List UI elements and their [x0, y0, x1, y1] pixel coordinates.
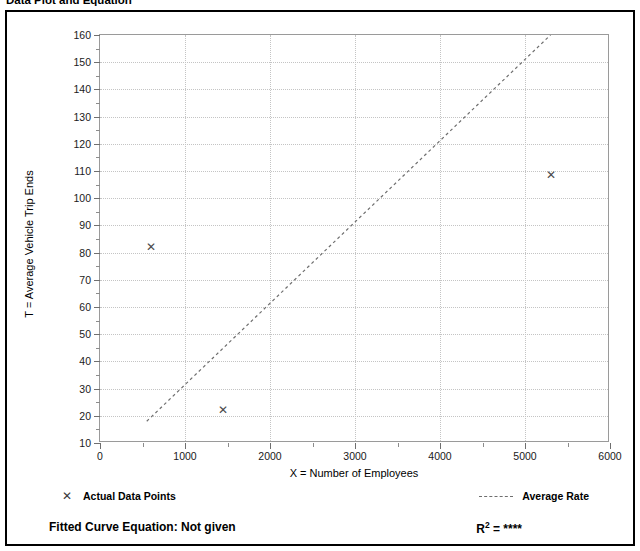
x-axis-minor-tick — [568, 443, 569, 447]
gridline-vertical — [525, 35, 526, 441]
y-axis-tick — [94, 389, 100, 390]
y-axis-minor-tick — [96, 76, 100, 77]
y-axis-tick-label: 110 — [74, 165, 91, 177]
y-axis-tick — [94, 62, 100, 63]
gridline-vertical — [355, 35, 356, 441]
y-axis-tick — [94, 416, 100, 417]
legend-label-data-points: Actual Data Points — [83, 490, 176, 502]
x-axis-minor-tick — [483, 443, 484, 447]
y-axis-minor-tick — [96, 212, 100, 213]
y-axis-title: T = Average Vehicle Trip Ends — [23, 144, 35, 344]
x-axis-tick-label: 6000 — [598, 450, 621, 462]
y-axis-tick-label: 30 — [79, 383, 91, 395]
gridline-horizontal — [100, 171, 608, 172]
gridline-horizontal — [100, 389, 608, 390]
legend-item-average-rate: Average Rate — [479, 490, 589, 502]
y-axis-minor-tick — [96, 375, 100, 376]
x-axis-tick-label: 3000 — [343, 450, 366, 462]
x-axis-tick — [270, 443, 271, 449]
x-axis-title: X = Number of Employees — [99, 467, 609, 479]
x-axis-minor-tick — [143, 443, 144, 447]
y-axis-minor-tick — [96, 321, 100, 322]
x-axis-tick — [525, 443, 526, 449]
y-axis-minor-tick — [96, 130, 100, 131]
x-axis-tick-label: 0 — [97, 450, 103, 462]
gridline-horizontal — [100, 117, 608, 118]
data-point-marker: ✕ — [545, 170, 556, 181]
gridline-vertical — [270, 35, 271, 441]
data-point-marker: ✕ — [218, 405, 229, 416]
y-axis-tick — [94, 171, 100, 172]
y-axis-tick — [94, 361, 100, 362]
x-axis-tick — [185, 443, 186, 449]
x-axis-minor-tick — [398, 443, 399, 447]
x-marker-icon: ✕ — [62, 490, 72, 502]
chart-legend: ✕ Actual Data Points Average Rate — [7, 490, 637, 512]
gridline-horizontal — [100, 62, 608, 63]
gridline-horizontal — [100, 334, 608, 335]
y-axis-tick-label: 90 — [79, 219, 91, 231]
y-axis-minor-tick — [96, 239, 100, 240]
x-axis-minor-tick — [228, 443, 229, 447]
y-axis-minor-tick — [96, 402, 100, 403]
gridline-vertical — [440, 35, 441, 441]
chart-header: Data Plot and Equation — [0, 0, 640, 10]
y-axis-tick — [94, 280, 100, 281]
legend-item-data-points: ✕ Actual Data Points — [62, 490, 176, 502]
x-axis-tick-label: 1000 — [173, 450, 196, 462]
plot-inner: ✕✕✕ — [100, 35, 608, 441]
gridline-horizontal — [100, 416, 608, 417]
y-axis-minor-tick — [96, 293, 100, 294]
plot-area: ✕✕✕ 102030405060708090100110120130140150… — [99, 34, 609, 442]
y-axis-tick — [94, 225, 100, 226]
legend-label-average-rate: Average Rate — [522, 490, 589, 502]
gridline-vertical — [185, 35, 186, 441]
y-axis-tick-label: 60 — [79, 301, 91, 313]
x-axis-tick — [610, 443, 611, 449]
y-axis-minor-tick — [96, 185, 100, 186]
y-axis-tick-label: 150 — [73, 56, 91, 68]
data-point-marker: ✕ — [146, 242, 157, 253]
y-axis-tick — [94, 334, 100, 335]
y-axis-tick-label: 80 — [79, 247, 91, 259]
y-axis-tick — [94, 144, 100, 145]
chart-canvas: T = Average Vehicle Trip Ends X = Number… — [7, 12, 637, 548]
y-axis-tick-label: 160 — [73, 29, 91, 41]
y-axis-minor-tick — [96, 103, 100, 104]
average-rate-trendline — [100, 35, 608, 441]
y-axis-tick — [94, 253, 100, 254]
fitted-curve-equation: Fitted Curve Equation: Not given — [49, 520, 236, 534]
gridline-horizontal — [100, 361, 608, 362]
y-axis-tick-label: 50 — [79, 328, 91, 340]
y-axis-tick-label: 100 — [73, 192, 91, 204]
r-squared-equals: = **** — [490, 522, 522, 536]
y-axis-tick-label: 70 — [79, 274, 91, 286]
gridline-horizontal — [100, 280, 608, 281]
y-axis-tick-label: 10 — [79, 437, 91, 449]
gridline-horizontal — [100, 144, 608, 145]
y-axis-tick-label: 140 — [73, 83, 91, 95]
r-squared-base: R — [476, 522, 485, 536]
y-axis-minor-tick — [96, 157, 100, 158]
y-axis-tick — [94, 35, 100, 36]
y-axis-minor-tick — [96, 348, 100, 349]
y-axis-minor-tick — [96, 429, 100, 430]
x-axis-tick — [100, 443, 101, 449]
page-title: Data Plot and Equation — [6, 0, 132, 6]
y-axis-tick-label: 130 — [73, 111, 91, 123]
y-axis-tick — [94, 89, 100, 90]
chart-footer: Fitted Curve Equation: Not given R2 = **… — [7, 520, 637, 544]
y-axis-tick-label: 20 — [79, 410, 91, 422]
y-axis-tick — [94, 307, 100, 308]
trendline-path — [147, 35, 551, 421]
x-axis-tick — [440, 443, 441, 449]
x-axis-tick-label: 5000 — [513, 450, 536, 462]
gridline-horizontal — [100, 198, 608, 199]
gridline-horizontal — [100, 225, 608, 226]
x-axis-minor-tick — [313, 443, 314, 447]
y-axis-tick — [94, 117, 100, 118]
gridline-horizontal — [100, 89, 608, 90]
dashed-line-icon — [479, 496, 513, 497]
y-axis-tick — [94, 198, 100, 199]
gridline-horizontal — [100, 253, 608, 254]
